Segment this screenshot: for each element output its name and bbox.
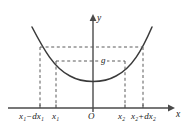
horizontal-dashed-lines: [40, 47, 143, 61]
tick-label-x1-minus-dx1: x₁−dx₁: [19, 112, 44, 121]
y-axis: [90, 14, 97, 112]
x-axis-label: x: [176, 110, 180, 120]
g-level-label: g: [100, 56, 107, 65]
tick-label-x2: x₂: [118, 112, 125, 121]
tick-label-x1: x₁: [52, 112, 59, 121]
tick-label-x2-plus-dx2: x₂+dx₂: [131, 112, 156, 121]
y-axis-label: y: [97, 14, 101, 24]
y-axis-arrowhead: [90, 14, 97, 21]
x-axis-arrowhead: [168, 105, 175, 112]
parabola-curve: [32, 27, 152, 82]
parabola-differential-figure: y x O g x₁−dx₁ x₁ x₂ x₂+dx₂: [0, 0, 184, 135]
origin-label: O: [88, 112, 95, 121]
vertical-dashed-lines: [40, 47, 143, 106]
